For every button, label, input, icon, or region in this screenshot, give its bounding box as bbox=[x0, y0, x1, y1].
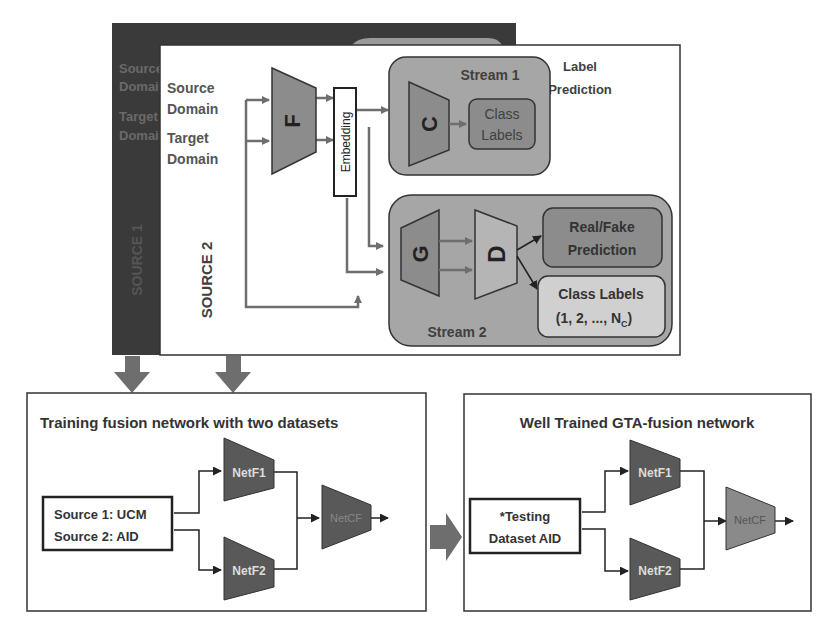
embedding-block: Embedding bbox=[334, 88, 356, 196]
testing-title: Well Trained GTA-fusion network bbox=[520, 414, 755, 431]
testing-input-2: Dataset AID bbox=[489, 531, 561, 546]
testing-netf2: NetF2 bbox=[638, 564, 672, 578]
testing-netcf: NetCF bbox=[734, 514, 766, 526]
generator-g: G bbox=[408, 245, 433, 262]
real-fake-output: Real/Fake bbox=[569, 219, 635, 235]
source2-panel: SOURCE 2 Source Domain Target Domain F E… bbox=[160, 45, 680, 355]
target-domain-label: Target bbox=[167, 130, 209, 146]
label-prediction-heading: Label bbox=[563, 59, 597, 74]
source2-label: SOURCE 2 bbox=[198, 242, 215, 319]
training-netf1: NetF1 bbox=[232, 466, 266, 480]
source1-label: SOURCE 1 bbox=[129, 224, 145, 296]
svg-text:Prediction: Prediction bbox=[548, 82, 612, 97]
training-box: Training fusion network with two dataset… bbox=[27, 393, 426, 611]
svg-text:Domain: Domain bbox=[167, 151, 218, 167]
faded-source-text: Source bbox=[119, 61, 163, 76]
discriminator-d: D bbox=[483, 245, 510, 262]
training-title: Training fusion network with two dataset… bbox=[40, 414, 338, 431]
stream1-output: Class bbox=[484, 106, 519, 122]
svg-text:F: F bbox=[280, 114, 305, 127]
training-netcf: NetCF bbox=[330, 512, 362, 524]
classifier-c: C bbox=[417, 116, 442, 132]
svg-text:Target: Target bbox=[119, 109, 158, 124]
training-netf2: NetF2 bbox=[232, 564, 266, 578]
svg-text:Labels: Labels bbox=[481, 127, 522, 143]
training-input-2: Source 2: AID bbox=[54, 529, 139, 544]
stream2: Stream 2 G D Real/Fake Prediction Class … bbox=[389, 195, 672, 346]
testing-input-1: *Testing bbox=[500, 509, 550, 524]
stream1-title: Stream 1 bbox=[460, 67, 519, 83]
testing-box: Well Trained GTA-fusion network *Testing… bbox=[464, 394, 811, 611]
svg-text:Embedding: Embedding bbox=[339, 112, 353, 173]
svg-text:Domain: Domain bbox=[167, 101, 218, 117]
stream2-title: Stream 2 bbox=[427, 324, 486, 340]
testing-netf1: NetF1 bbox=[638, 466, 672, 480]
training-input-1: Source 1: UCM bbox=[54, 507, 146, 522]
svg-text:Prediction: Prediction bbox=[568, 242, 636, 258]
gta-fusion-diagram: Source Domain Target Domain SOURCE 1 SOU… bbox=[0, 0, 831, 634]
class-labels-output: Class Labels bbox=[558, 286, 644, 302]
source-domain-label: Source bbox=[167, 80, 215, 96]
stream1: Stream 1 C Class Labels bbox=[389, 57, 550, 175]
